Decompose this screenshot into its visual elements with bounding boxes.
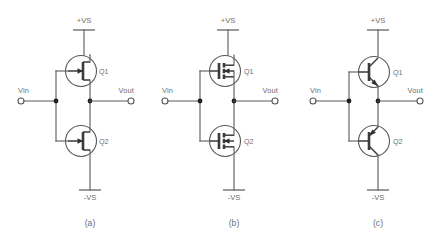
top-rail-label-a: +VS	[77, 16, 92, 25]
vout-label-b: Vout	[263, 86, 278, 95]
vin-terminal-b	[162, 98, 168, 104]
bottom-rail-label-a: -VS	[84, 193, 97, 202]
caption-a: (a)	[85, 218, 96, 228]
circuit-a: +VS Q1	[18, 16, 134, 228]
caption-c: (c)	[373, 218, 383, 228]
q1-label-b: Q1	[244, 67, 254, 76]
circuit-b: +VS Q1	[162, 16, 278, 228]
q1-label-c: Q1	[393, 68, 403, 77]
caption-b: (b)	[229, 218, 240, 228]
q1-label-a: Q1	[99, 67, 109, 76]
vin-terminal-a	[18, 98, 24, 104]
vout-terminal-c	[417, 98, 423, 104]
vin-node-dot-a	[54, 99, 59, 104]
vout-label-c: Vout	[408, 86, 423, 95]
vin-node-dot-b	[198, 99, 203, 104]
schematic-figure: +VS Q1	[0, 0, 443, 240]
vin-node-dot-c	[347, 99, 352, 104]
vout-terminal-a	[128, 98, 134, 104]
figure-root: +VS Q1	[0, 0, 443, 240]
top-rail-label-b: +VS	[221, 16, 236, 25]
bottom-rail-label-b: -VS	[228, 193, 241, 202]
vin-label-b: Vin	[162, 86, 173, 95]
circuit-c: +VS Q1	[310, 16, 423, 228]
vout-label-a: Vout	[119, 86, 134, 95]
q2-label-a: Q2	[99, 137, 109, 146]
vout-terminal-b	[272, 98, 278, 104]
q2-label-c: Q2	[393, 137, 403, 146]
vin-label-c: Vin	[310, 86, 321, 95]
top-rail-label-c: +VS	[371, 16, 386, 25]
vin-label-a: Vin	[18, 86, 29, 95]
vin-terminal-c	[310, 98, 316, 104]
bottom-rail-label-c: -VS	[372, 193, 385, 202]
q2-label-b: Q2	[244, 137, 254, 146]
